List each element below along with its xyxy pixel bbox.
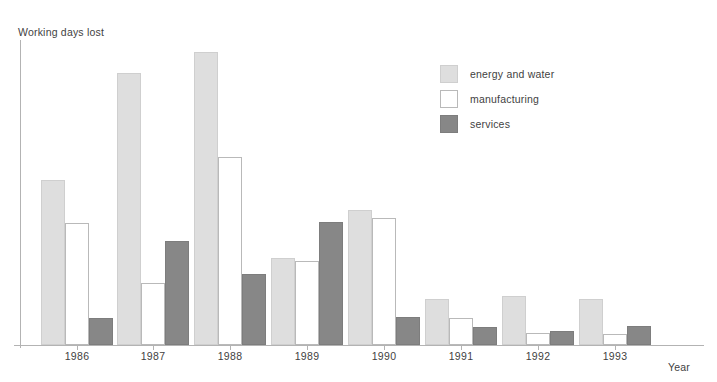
- x-axis-title: Year: [668, 361, 690, 373]
- bar-manufacturing-1986: [65, 223, 89, 345]
- bar-energy-1987: [117, 73, 141, 345]
- bar-energy-1986: [41, 180, 65, 345]
- chart-legend: energy and watermanufacturingservices: [440, 61, 554, 136]
- x-tick-label-1993: 1993: [585, 350, 645, 362]
- bar-services-1987: [165, 241, 189, 345]
- bar-energy-1991: [425, 299, 449, 345]
- bar-energy-1992: [502, 296, 526, 345]
- bar-manufacturing-1987: [141, 283, 165, 345]
- x-tick-label-1992: 1992: [508, 350, 568, 362]
- x-tick-label-1986: 1986: [47, 350, 107, 362]
- bar-manufacturing-1988: [218, 157, 242, 345]
- x-tick-label-1989: 1989: [277, 350, 337, 362]
- legend-label-manufacturing: manufacturing: [470, 93, 539, 105]
- bar-energy-1989: [271, 258, 295, 345]
- legend-label-energy: energy and water: [470, 68, 554, 80]
- bar-services-1992: [550, 331, 574, 345]
- legend-label-services: services: [470, 118, 510, 130]
- legend-item-energy: energy and water: [440, 61, 554, 86]
- legend-swatch-manufacturing: [440, 90, 458, 108]
- chart-container: Working days lost 1986198719881989199019…: [0, 0, 717, 382]
- bar-energy-1993: [579, 299, 603, 345]
- bar-services-1991: [473, 327, 497, 345]
- bar-services-1990: [396, 317, 420, 345]
- x-tick-label-1988: 1988: [200, 350, 260, 362]
- bar-services-1989: [319, 222, 343, 345]
- bar-manufacturing-1991: [449, 318, 473, 345]
- plot-area: 19861987198819891990199119921993: [0, 0, 717, 382]
- x-tick-label-1991: 1991: [431, 350, 491, 362]
- bar-services-1986: [89, 318, 113, 345]
- bar-energy-1988: [194, 52, 218, 345]
- bar-manufacturing-1992: [526, 333, 550, 345]
- bar-manufacturing-1989: [295, 261, 319, 345]
- legend-swatch-services: [440, 115, 458, 133]
- legend-item-manufacturing: manufacturing: [440, 86, 554, 111]
- bar-manufacturing-1990: [372, 218, 396, 345]
- x-tick-label-1990: 1990: [354, 350, 414, 362]
- bar-manufacturing-1993: [603, 334, 627, 345]
- x-tick-label-1987: 1987: [123, 350, 183, 362]
- bar-services-1988: [242, 274, 266, 345]
- legend-swatch-energy: [440, 65, 458, 83]
- bar-energy-1990: [348, 210, 372, 345]
- bar-services-1993: [627, 326, 651, 345]
- legend-item-services: services: [440, 111, 554, 136]
